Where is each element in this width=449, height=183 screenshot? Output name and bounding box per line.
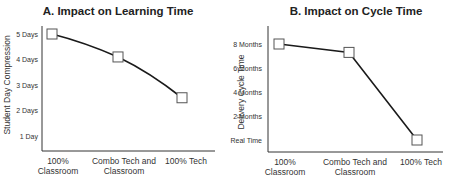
data-point-marker bbox=[344, 47, 354, 57]
chart-canvas: A. Impact on Learning Time1 Day2 Days3 D… bbox=[0, 0, 449, 183]
x-tick-label: Combo Tech and bbox=[323, 157, 387, 167]
chart-title: B. Impact on Cycle Time bbox=[290, 5, 423, 17]
y-tick-label: Real Time bbox=[230, 137, 262, 144]
y-tick-label: 3 Days bbox=[16, 82, 38, 90]
x-tick-label: 100% bbox=[274, 157, 296, 167]
y-tick-label: 8 Months bbox=[233, 41, 262, 48]
y-tick-label: 2 Days bbox=[16, 107, 38, 115]
y-tick-label: 1 Day bbox=[20, 133, 39, 141]
y-tick-label: 4 Days bbox=[16, 56, 38, 64]
data-point-marker bbox=[47, 29, 57, 39]
x-tick-label: Classroom bbox=[38, 166, 79, 176]
chart-a: A. Impact on Learning Time1 Day2 Days3 D… bbox=[2, 5, 215, 176]
data-point-marker bbox=[412, 135, 422, 145]
x-tick-label: 100% Tech bbox=[400, 157, 442, 167]
y-tick-label: 5 Days bbox=[16, 31, 38, 39]
x-tick-label: Classroom bbox=[335, 167, 376, 177]
x-tick-label: 100% Tech bbox=[165, 156, 207, 166]
y-axis-label: Delivery Cycle Time bbox=[236, 54, 246, 129]
data-point-marker bbox=[274, 39, 284, 49]
x-tick-label: Combo Tech and bbox=[92, 156, 156, 166]
x-tick-label: Classroom bbox=[104, 166, 145, 176]
data-point-marker bbox=[177, 93, 187, 103]
x-tick-label: 100% bbox=[47, 156, 69, 166]
data-line bbox=[52, 34, 182, 98]
data-point-marker bbox=[113, 52, 123, 62]
x-tick-label: Classroom bbox=[265, 167, 306, 177]
chart-b: B. Impact on Cycle TimeReal Time2 Months… bbox=[230, 5, 443, 177]
y-axis-label: Student Day Compression bbox=[2, 35, 12, 134]
data-line bbox=[279, 44, 417, 140]
chart-title: A. Impact on Learning Time bbox=[43, 5, 194, 17]
